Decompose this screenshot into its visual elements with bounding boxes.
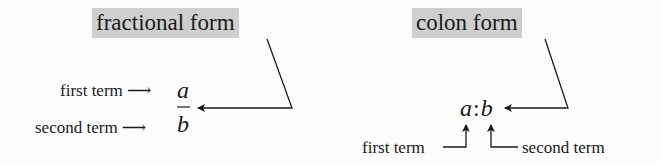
colon-b: b bbox=[481, 95, 493, 121]
denominator-b: b bbox=[177, 112, 189, 136]
fractional-first-term-label: first term ⟶ bbox=[60, 81, 151, 101]
colon-second-term-arrow bbox=[491, 125, 518, 147]
right-arrow-icon: ⟶ bbox=[127, 81, 151, 100]
first-term-text: first term bbox=[60, 81, 123, 100]
right-arrow-icon: ⟶ bbox=[122, 118, 146, 137]
colon-form-header: colon form bbox=[412, 8, 522, 38]
colon-expression: a:b bbox=[460, 96, 493, 120]
fractional-connector-arrow bbox=[198, 39, 292, 108]
colon-first-term-label: first term bbox=[362, 138, 425, 158]
colon-separator: : bbox=[472, 95, 481, 121]
colon-second-term-label: second term bbox=[522, 138, 605, 158]
colon-first-term-arrow bbox=[443, 125, 466, 147]
fractional-form-header: fractional form bbox=[92, 8, 239, 38]
colon-a: a bbox=[460, 95, 472, 121]
colon-connector-arrow bbox=[505, 39, 568, 108]
fractional-second-term-label: second term ⟶ bbox=[35, 118, 146, 138]
numerator-a: a bbox=[177, 78, 189, 102]
second-term-text: second term bbox=[35, 118, 118, 137]
